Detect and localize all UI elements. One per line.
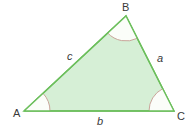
triangle-diagram: A B C c a b bbox=[0, 0, 195, 134]
side-label-a: a bbox=[157, 52, 163, 64]
side-label-c: c bbox=[67, 50, 73, 62]
vertex-label-b: B bbox=[122, 1, 129, 13]
side-label-b: b bbox=[97, 115, 103, 127]
triangle-shape bbox=[24, 16, 174, 111]
triangle-svg: A B C c a b bbox=[0, 0, 195, 134]
vertex-label-c: C bbox=[177, 110, 185, 122]
vertex-label-a: A bbox=[13, 107, 21, 119]
